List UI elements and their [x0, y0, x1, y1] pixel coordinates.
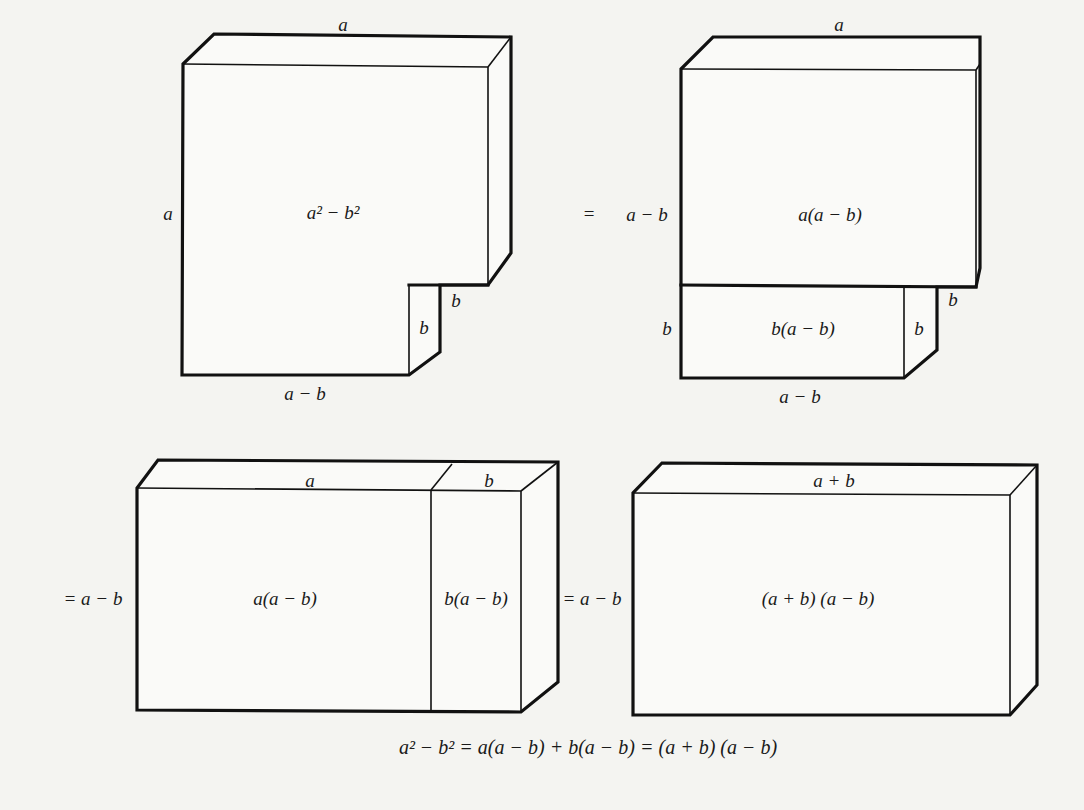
panel-2-notch-step-label: b — [948, 289, 958, 310]
panel-2-left-lower-label: b — [662, 318, 672, 339]
panel-3-left-area-label: a(a − b) — [253, 588, 316, 610]
panel-3-left-label: = a − b — [64, 588, 123, 609]
panel-1-top-label: a — [338, 14, 348, 35]
panel-2-upper-area-label: a(a − b) — [798, 204, 861, 226]
panel-2-lower-area-label: b(a − b) — [771, 318, 834, 340]
panel-2-divider — [681, 285, 976, 287]
panel-3-face — [137, 460, 558, 712]
panel-3-right-area-label: b(a − b) — [444, 588, 507, 610]
panel-1-area-label: a² − b² — [307, 202, 360, 223]
panel-2-bottom-label: a − b — [779, 386, 820, 407]
panel-4-top-label: a + b — [813, 470, 854, 491]
panel-2-notch-side-label: b — [914, 318, 924, 339]
panel-2-top-label: a — [834, 14, 844, 35]
panel-2-front-top-edge — [681, 69, 976, 70]
panel-2-left-upper-label: a − b — [626, 204, 667, 225]
panel-1-notch-step-label: b — [451, 290, 461, 311]
panel-4-area-label: (a + b) (a − b) — [762, 588, 875, 610]
panel-4-left-label: = a − b — [563, 588, 622, 609]
panel-3-rearranged-shape — [137, 460, 558, 712]
panel-1-notch-side-label: b — [419, 317, 429, 338]
panel-1-left-label: a — [163, 203, 173, 224]
panel-3-top-right-label: b — [484, 470, 494, 491]
panel-3-top-left-label: a — [305, 470, 315, 491]
identity-formula: a² − b² = a(a − b) + b(a − b) = (a + b) … — [399, 736, 778, 759]
panel-1-bottom-label: a − b — [284, 383, 325, 404]
difference-of-squares-diagram: a a a² − b² a − b b b = a a − b b a(a − … — [0, 0, 1084, 810]
panel-2-equals-sign: = — [584, 203, 595, 224]
